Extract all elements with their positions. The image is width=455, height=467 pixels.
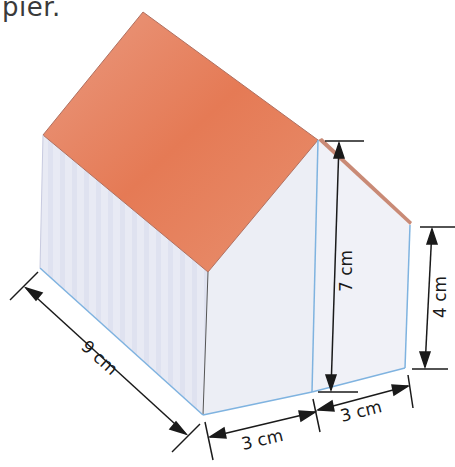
label-9cm: 9 cm	[77, 336, 122, 379]
label-7cm: 7 cm	[336, 250, 356, 292]
house-prism-figure: 9 cm 7 cm 4 cm 3 cm 3 cm	[0, 0, 455, 467]
label-4cm: 4 cm	[430, 276, 450, 318]
label-3cm-back: 3 cm	[338, 396, 384, 426]
label-3cm-front: 3 cm	[239, 425, 285, 454]
